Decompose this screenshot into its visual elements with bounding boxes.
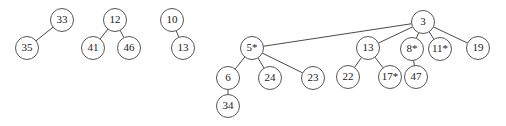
tree-node[interactable]: 35 (16, 37, 39, 60)
tree-edge (355, 57, 362, 67)
tree-node[interactable]: 5* (241, 37, 264, 60)
tree-3-edges (176, 31, 179, 38)
tree-edge (414, 60, 415, 65)
node-circle (217, 95, 240, 118)
node-circle (357, 37, 380, 60)
tree-node[interactable]: 41 (82, 37, 105, 60)
tree-node[interactable]: 11* (429, 38, 452, 61)
tree-1-edges (36, 27, 53, 41)
node-circle (337, 66, 360, 89)
tree-node[interactable]: 8* (401, 38, 424, 61)
tree-edge (375, 57, 383, 68)
tree-edge (100, 29, 108, 39)
diagram-canvas: 3335124146101335*138*11*19624232217*4734 (0, 0, 506, 126)
node-circle (401, 38, 424, 61)
tree-edge (258, 58, 264, 68)
tree-node[interactable]: 33 (51, 9, 74, 32)
node-circle (217, 67, 240, 90)
tree-edge (36, 27, 53, 41)
node-circle (16, 37, 39, 60)
tree-edge (429, 32, 434, 40)
tree-node[interactable]: 6 (217, 67, 240, 90)
tree-node[interactable]: 46 (118, 37, 141, 60)
node-circle (118, 37, 141, 60)
tree-4-nodes: 35*138*11*19624232217*4734 (217, 11, 490, 118)
tree-forest-svg: 3335124146101335*138*11*19624232217*4734 (0, 0, 506, 126)
node-circle (82, 37, 105, 60)
tree-node[interactable]: 22 (337, 66, 360, 89)
tree-edge (263, 24, 411, 47)
node-circle (241, 37, 264, 60)
nodes-layer: 3335124146101335*138*11*19624232217*4734 (16, 9, 490, 118)
tree-edge (416, 33, 418, 39)
tree-node[interactable]: 12 (104, 9, 127, 32)
tree-node[interactable]: 13 (172, 37, 195, 60)
tree-node[interactable]: 17* (379, 66, 402, 89)
node-circle (429, 38, 452, 61)
node-circle (259, 67, 282, 90)
node-circle (405, 66, 428, 89)
node-circle (172, 37, 195, 60)
node-circle (412, 11, 435, 34)
tree-node[interactable]: 19 (467, 37, 490, 60)
node-circle (302, 67, 325, 90)
tree-node[interactable]: 47 (405, 66, 428, 89)
tree-edge (120, 30, 124, 37)
node-circle (467, 37, 490, 60)
tree-edge (235, 57, 245, 69)
tree-node[interactable]: 34 (217, 95, 240, 118)
tree-edge (176, 31, 179, 38)
tree-node[interactable]: 24 (259, 67, 282, 90)
tree-node[interactable]: 13 (357, 37, 380, 60)
node-circle (51, 9, 74, 32)
tree-node[interactable]: 23 (302, 67, 325, 90)
tree-node[interactable]: 10 (161, 9, 184, 32)
node-circle (379, 66, 402, 89)
tree-node[interactable]: 3 (412, 11, 435, 34)
node-circle (161, 9, 184, 32)
node-circle (104, 9, 127, 32)
tree-2-nodes: 124146 (82, 9, 141, 60)
